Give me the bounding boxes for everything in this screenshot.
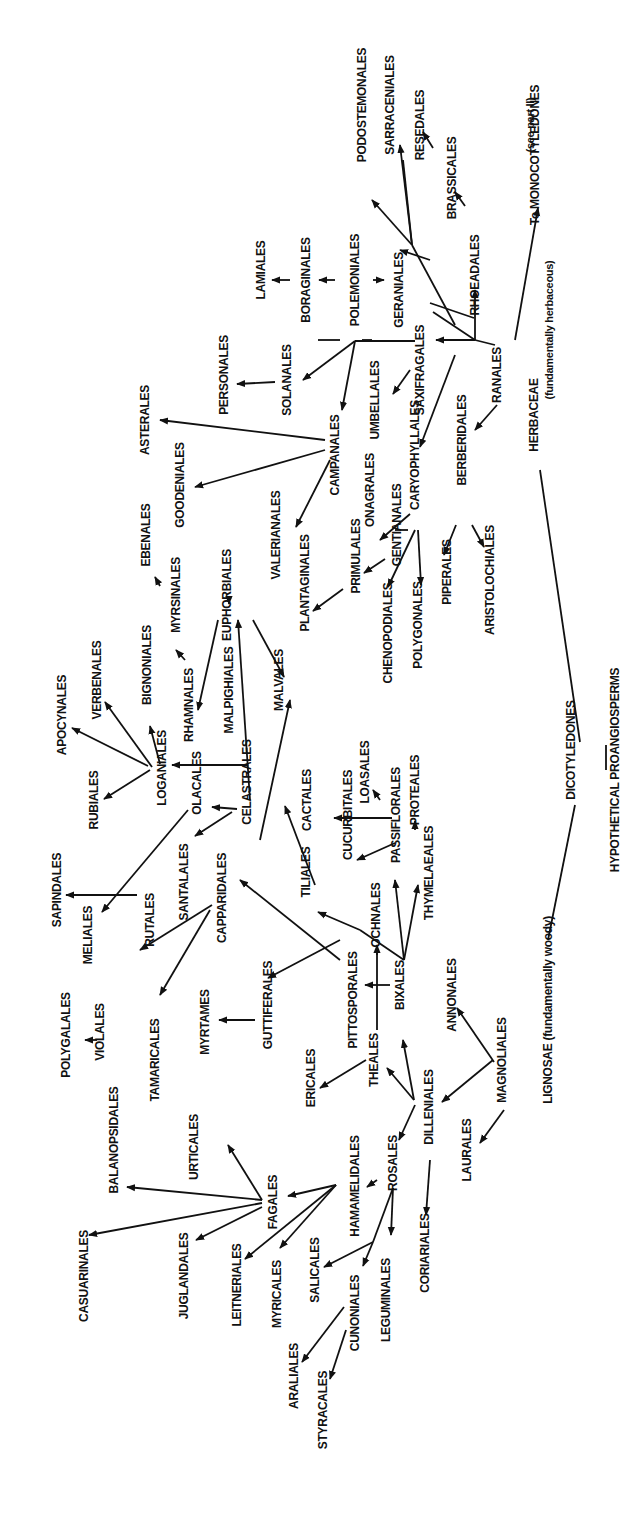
node-leguminales: LEGUMINALES <box>380 1258 392 1342</box>
node-violales: VIOLALES <box>94 1003 106 1061</box>
node-guttiferales: GUTTIFERALES <box>262 961 274 1049</box>
connector-line <box>475 340 495 345</box>
arrow-edge <box>303 341 355 380</box>
node-cactales: CACTALES <box>301 769 313 831</box>
node-hypothetical-proangiosperms: HYPOTHETICAL PROANGIOSPERMS <box>609 668 621 872</box>
node-rosales: ROSALES <box>387 1135 399 1191</box>
node-santalales: SANTALALES <box>178 844 190 921</box>
arrow-edge <box>404 885 418 960</box>
node-umbellales: UMBELLALES <box>369 361 381 440</box>
arrow-edge <box>442 1060 493 1102</box>
arrow-edge <box>268 940 340 978</box>
node-polygonales: POLYGONALES <box>412 581 424 669</box>
node-aralialesc: ARALIALES <box>288 1343 300 1409</box>
arrow-edge <box>155 577 160 586</box>
node-aristolochiales: ARISTOLOCHIALES <box>484 525 496 635</box>
arrow-edge <box>426 1160 430 1215</box>
node-proteales: PROTEALES <box>409 755 421 826</box>
arrow-edge <box>127 1187 262 1200</box>
node-valerianales: VALERIANALES <box>270 491 282 580</box>
node-sapindales: SAPINDALES <box>51 853 63 927</box>
node-gentianales: GENTIANALES <box>391 484 403 567</box>
node-myrtames: MYRTAMES <box>199 989 211 1054</box>
node-loasales: LOASALES <box>359 741 371 804</box>
arrow-edge <box>296 460 330 527</box>
node-bignoniales: BIGNONIALES <box>141 625 153 705</box>
node-malvales: MALVALES <box>273 649 285 711</box>
arrow-edge <box>395 880 404 960</box>
arrow-edge <box>313 589 343 611</box>
node-piperales: PIPERALES <box>441 539 453 604</box>
node-myricales: MYRICALES <box>271 1260 283 1328</box>
node-cucurbitales: CUCURBITALES <box>342 770 354 860</box>
edge-group <box>66 132 606 1379</box>
arrow-edge <box>418 530 421 585</box>
node-balanopsidales: BALANOPSIDALES <box>108 1086 120 1193</box>
node-chenopodiales: CHENOPODIALES <box>382 583 394 684</box>
node-berberidales: BERBERIDALES <box>456 394 468 485</box>
phylogeny-diagram: HYPOTHETICAL PROANGIOSPERMSDICOTYLEDONES… <box>0 0 641 1527</box>
node-see-part-ii: (see part II) <box>525 98 536 153</box>
node-apocynales: APOCYNALES <box>56 675 68 755</box>
node-tamaricales: TAMARICALES <box>149 1018 161 1101</box>
node-coriariales: CORIARIALES <box>419 1213 431 1292</box>
node-magnoliales: MAGNOLIALES <box>496 1017 508 1102</box>
arrow-edge <box>228 1145 262 1200</box>
node-rutales: RUTALES <box>144 893 156 947</box>
node-laurales: LAURALES <box>461 1119 473 1182</box>
node-leitneriales: LEITNERIALES <box>231 1243 243 1326</box>
node-personales: PERSONALES <box>218 335 230 415</box>
node-fagales: FAGALES <box>267 1175 279 1230</box>
node-olacales: OLACALES <box>191 751 203 815</box>
arrow-edge <box>515 208 538 340</box>
node-herbaceae-note: (fundamentally herbaceous) <box>544 261 555 400</box>
node-cunoniales: CUNONIALES <box>349 1275 361 1351</box>
node-asterales: ASTERALES <box>139 385 151 455</box>
arrow-edge <box>393 370 410 394</box>
node-dicotyledones: DICOTYLEDONES <box>565 700 577 799</box>
arrow-edge <box>399 1105 415 1140</box>
node-celastrales: CELASTRALES <box>241 739 253 824</box>
arrow-edge <box>387 1068 414 1100</box>
node-polygalales: POLYGALALES <box>60 992 72 1078</box>
node-styracales: STYRACALES <box>317 1371 329 1449</box>
arrow-edge <box>196 1207 262 1240</box>
node-capparidales: CAPPARIDALES <box>216 853 228 943</box>
node-juglandales: JUGLANDALES <box>178 1233 190 1320</box>
arrow-edge <box>198 620 218 710</box>
node-loganiales: LOGANIALES <box>156 730 168 806</box>
node-meliales: MELIALES <box>82 906 94 964</box>
node-caryophyllales: CARYOPHYLLALES <box>409 400 421 510</box>
arrow-edge <box>260 700 290 840</box>
node-rhamnales: RHAMNALES <box>183 668 195 742</box>
node-rubiales: RUBIALES <box>88 771 100 830</box>
node-rhoeadales: RHOEADALES <box>469 234 481 315</box>
node-herbaceae: HERBACEAE <box>528 378 540 451</box>
arrow-edge <box>367 1180 377 1187</box>
node-geraniales: GERANIALES <box>393 252 405 328</box>
node-ochnales: OCHNALES <box>370 883 382 948</box>
node-casuarinales: CASUARINALES <box>78 1230 90 1322</box>
arrow-edge <box>373 790 380 800</box>
arrow-edge <box>320 1060 366 1088</box>
arrow-edge <box>403 1040 414 1100</box>
node-theales: THEALES <box>368 1033 380 1087</box>
node-tiliales: TILIALES <box>300 847 312 898</box>
node-goodeniales: GOODENIALES <box>174 442 186 527</box>
arrow-edge <box>176 650 185 660</box>
node-annonales: ANNONALES <box>446 958 458 1031</box>
node-podostemonales: PODOSTEMONALES <box>356 48 368 162</box>
arrow-edge <box>372 200 412 245</box>
node-dilleniales: DILLENIALES <box>423 1069 435 1144</box>
node-hamamelidales: HAMAMELIDALES <box>349 1135 361 1236</box>
node-euphorbiales: EUPHORBIALES <box>221 549 233 641</box>
arrow-edge <box>195 812 232 836</box>
arrow-edge <box>195 450 325 487</box>
connector-line <box>373 1188 393 1242</box>
node-malpighiales: MALPIGHIALES <box>223 646 235 733</box>
node-lamiales: LAMIALES <box>255 241 267 300</box>
node-brassicales: BRASSICALES <box>446 137 458 220</box>
node-myrsinales: MYRSINALES <box>170 557 182 633</box>
arrow-edge <box>342 341 355 410</box>
node-pittosporales: PITTOSPORALES <box>347 951 359 1048</box>
